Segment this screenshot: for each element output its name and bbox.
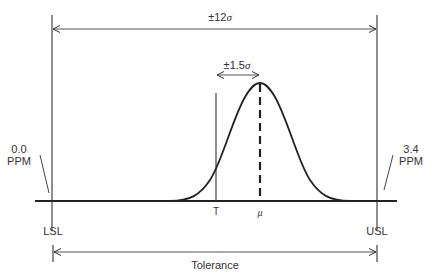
right-ppm-unit: PPM — [396, 155, 426, 167]
left-ppm-value: 0.0 — [4, 143, 34, 155]
tolerance-label: Tolerance — [165, 259, 265, 271]
left-ppm-leader — [40, 155, 49, 193]
right-ppm-value: 3.4 — [396, 143, 426, 155]
mean-label: μ — [250, 207, 270, 219]
left-ppm-label: 0.0 PPM — [4, 143, 34, 167]
twelve-sigma-label: ±12σ — [195, 11, 245, 23]
sigma-symbol: σ — [226, 11, 231, 23]
twelve-sigma-value: ±12 — [208, 11, 226, 23]
sigma-symbol: σ — [245, 59, 250, 71]
target-label: T — [206, 206, 226, 218]
shift-sigma-label: ±1.5σ — [212, 59, 262, 71]
usl-label: USL — [362, 225, 392, 237]
right-ppm-leader — [384, 155, 393, 190]
six-sigma-diagram — [0, 0, 432, 280]
right-ppm-label: 3.4 PPM — [396, 143, 426, 167]
left-ppm-unit: PPM — [4, 155, 34, 167]
shift-sigma-value: ±1.5 — [224, 59, 245, 71]
lsl-label: LSL — [38, 225, 68, 237]
